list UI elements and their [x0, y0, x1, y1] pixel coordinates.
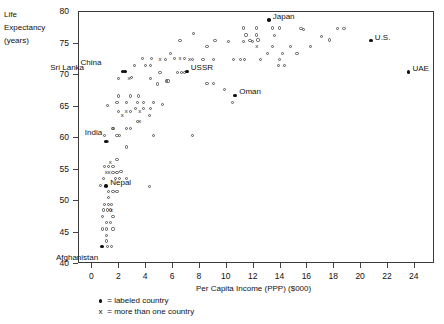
data-point-label: Oman	[239, 87, 261, 96]
y-tick-label: 65	[49, 101, 69, 111]
x-tick-label: 10	[217, 271, 235, 281]
data-point-label: Afghanistan	[56, 253, 98, 262]
chart-legend: = labeled country x = more than one coun…	[96, 295, 194, 317]
y-tick-mark	[73, 106, 78, 107]
y-axis-title: Life Expectancy (years)	[4, 8, 45, 47]
data-point-open	[256, 38, 259, 41]
data-point-open	[158, 71, 161, 74]
x-tick-label: 0	[82, 271, 100, 281]
data-point-labeled	[267, 18, 271, 22]
data-point-open	[111, 165, 114, 168]
data-point-multiple: x	[110, 126, 115, 131]
x-tick-mark	[91, 263, 92, 268]
data-point-open	[105, 234, 108, 237]
x-tick-label: 22	[378, 271, 396, 281]
data-point-open	[227, 40, 230, 43]
data-point-multiple: x	[178, 56, 183, 61]
data-point-multiple: x	[137, 119, 142, 124]
x-tick-label: 14	[271, 271, 289, 281]
data-point-open	[152, 134, 155, 137]
data-point-open	[242, 40, 245, 43]
data-point-open	[255, 26, 258, 29]
y-tick-label: 55	[49, 164, 69, 174]
data-point-open	[244, 33, 247, 36]
data-point-open	[278, 26, 281, 29]
data-point-multiple: x	[157, 57, 162, 62]
data-point-open	[213, 39, 216, 42]
data-point-open	[125, 145, 128, 148]
y-axis-title-line-2: Expectancy	[4, 21, 45, 34]
data-point-open	[328, 38, 331, 41]
y-tick-mark	[73, 169, 78, 170]
data-point-open	[156, 82, 159, 85]
data-point-open	[115, 101, 118, 104]
x-tick-label: 18	[324, 271, 342, 281]
y-axis-title-line-3: (years)	[4, 34, 45, 47]
data-point-multiple: x	[187, 57, 192, 62]
data-point-labeled	[407, 70, 411, 74]
y-tick-label: 75	[49, 38, 69, 48]
y-tick-mark	[73, 137, 78, 138]
data-point-open	[117, 77, 120, 80]
x-tick-mark	[280, 263, 281, 268]
data-point-labeled	[104, 184, 108, 188]
data-point-multiple: x	[127, 76, 132, 81]
data-point-open	[231, 101, 234, 104]
data-point-label: U.S.	[375, 33, 391, 42]
data-point-open	[255, 33, 258, 36]
x-tick-mark	[172, 263, 173, 268]
data-point-label: Japan	[273, 12, 295, 21]
data-point-open	[201, 58, 204, 61]
data-point-open	[111, 227, 114, 230]
x-tick-mark	[199, 263, 200, 268]
data-point-open	[111, 215, 114, 218]
data-point-open	[115, 171, 118, 174]
data-point-open	[205, 45, 208, 48]
x-tick-label: 2	[109, 271, 127, 281]
data-point-open	[133, 64, 136, 67]
data-point-open	[176, 71, 179, 74]
x-axis-title: Per Capita Income (PPP) ($000)	[196, 284, 311, 293]
x-tick-label: 24	[405, 271, 423, 281]
data-point-open	[299, 27, 302, 30]
data-point-multiple: x	[109, 208, 114, 213]
legend-item-multiple-countries: x = more than one country	[96, 306, 194, 317]
data-point-open	[148, 114, 151, 117]
legend-label-labeled-country: = labeled country	[107, 296, 168, 305]
data-point-open	[205, 82, 208, 85]
data-point-open	[115, 158, 118, 161]
x-tick-mark	[306, 263, 307, 268]
data-point-open	[129, 94, 132, 97]
data-point-open	[152, 101, 155, 104]
x-tick-label: 12	[244, 271, 262, 281]
x-tick-mark	[387, 263, 388, 268]
data-point-label: Nepal	[110, 178, 131, 187]
x-tick-mark	[226, 263, 227, 268]
data-point-open	[320, 35, 323, 38]
data-point-label: UAE	[412, 64, 428, 73]
data-point-open	[115, 134, 118, 137]
data-point-labeled	[104, 140, 108, 144]
data-point-open	[125, 101, 128, 104]
data-point-open	[148, 185, 151, 188]
scatter-chart: Life Expectancy (years) Per Capita Incom…	[0, 0, 444, 324]
x-tick-label: 16	[297, 271, 315, 281]
data-point-open	[273, 34, 276, 37]
y-axis-title-line-1: Life	[4, 8, 45, 21]
x-tick-mark	[333, 263, 334, 268]
y-tick-mark	[73, 74, 78, 75]
data-point-open	[191, 134, 194, 137]
y-tick-mark	[73, 263, 78, 264]
data-point-labeled	[123, 70, 127, 74]
x-tick-mark	[414, 263, 415, 268]
data-point-labeled	[185, 70, 189, 74]
x-tick-mark	[145, 263, 146, 268]
data-point-label: India	[85, 128, 102, 137]
data-point-open	[251, 40, 254, 43]
y-tick-mark	[73, 232, 78, 233]
data-point-open	[137, 94, 140, 97]
data-point-multiple: x	[254, 44, 259, 49]
data-point-open	[136, 101, 139, 104]
data-point-open	[105, 239, 108, 242]
legend-label-multiple-countries: = more than one country	[107, 307, 194, 316]
